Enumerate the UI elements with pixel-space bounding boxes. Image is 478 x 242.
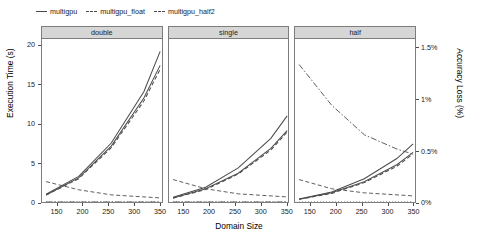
y2-tick-label: 0.5% <box>421 148 437 155</box>
facet-panel-single: single <box>168 26 290 203</box>
accuracy-line-multigpu_float <box>173 180 287 197</box>
y-axis-label-left: Execution Time (s) <box>2 0 14 177</box>
accuracy-line-multigpu_float <box>46 182 160 198</box>
chart-legend: multigpu multigpu_float multigpu_half2 <box>36 5 215 19</box>
x-tick-mark <box>261 203 262 206</box>
x-axis: 1502002503003501502002503003501502002503… <box>41 203 416 217</box>
y-axis-right: 0%0.5%1%1.5% <box>416 26 440 203</box>
legend-label: multigpu_float <box>100 8 145 15</box>
legend-item-multigpu: multigpu <box>36 8 77 15</box>
y2-tick-label: 1.5% <box>421 44 437 51</box>
y-tick-label: 20 <box>27 41 35 48</box>
time-line-multigpu_float <box>46 69 160 195</box>
y-tick-label: 5 <box>31 160 35 167</box>
x-tick-mark <box>235 203 236 206</box>
x-tick-label: 200 <box>330 208 342 215</box>
x-tick-mark <box>183 203 184 206</box>
legend-item-multigpu-float: multigpu_float <box>86 8 145 15</box>
time-line-multigpu_half2 <box>173 131 287 199</box>
x-tick-label: 300 <box>382 208 394 215</box>
y-axis-left: 05101520 <box>20 26 41 203</box>
x-tick-mark <box>388 203 389 206</box>
y2-tick-mark <box>416 47 419 48</box>
time-line-multigpu <box>173 116 287 198</box>
x-tick-label: 150 <box>51 208 63 215</box>
legend-item-multigpu-half2: multigpu_half2 <box>154 8 215 15</box>
facet-strip-label: double <box>42 27 162 39</box>
time-line-multigpu_float <box>299 154 413 199</box>
x-tick-mark <box>57 203 58 206</box>
time-line-multigpu_half2 <box>46 65 160 195</box>
plot-area-half <box>295 39 415 202</box>
x-tick-label: 250 <box>356 208 368 215</box>
facet-strip-label: half <box>295 27 415 39</box>
x-tick-label: 300 <box>255 208 267 215</box>
x-tick-mark <box>310 203 311 206</box>
legend-key-icon <box>86 8 97 15</box>
x-tick-label: 150 <box>177 208 189 215</box>
y2-tick-label: 0% <box>421 199 431 206</box>
x-tick-mark <box>413 203 414 206</box>
plot-area-double <box>42 39 162 202</box>
y2-tick-mark <box>416 203 419 204</box>
time-line-multigpu <box>299 144 413 199</box>
x-tick-mark <box>209 203 210 206</box>
x-tick-mark <box>108 203 109 206</box>
x-tick-mark <box>362 203 363 206</box>
y2-tick-mark <box>416 151 419 152</box>
legend-label: multigpu <box>50 8 77 15</box>
x-tick-mark <box>134 203 135 206</box>
y-axis-label-right: Accuracy Loss (%) <box>452 0 464 177</box>
facet-panels: doublesinglehalf <box>41 26 416 203</box>
legend-key-icon <box>154 8 165 15</box>
chart-root: multigpu multigpu_float multigpu_half2 E… <box>0 0 478 242</box>
x-tick-mark <box>336 203 337 206</box>
x-tick-label: 200 <box>203 208 215 215</box>
facet-panel-half: half <box>294 26 416 203</box>
facet-strip-label: single <box>169 27 289 39</box>
x-tick-label: 300 <box>128 208 140 215</box>
time-line-multigpu <box>46 51 160 194</box>
x-tick-label: 200 <box>76 208 88 215</box>
x-tick-label: 350 <box>154 208 166 215</box>
x-tick-label: 150 <box>304 208 316 215</box>
accuracy-line-multigpu_half2 <box>299 64 413 154</box>
x-tick-label: 350 <box>281 208 293 215</box>
y-axis-label-right-text: Accuracy Loss (%) <box>456 13 464 153</box>
plot-area-single <box>169 39 289 202</box>
time-line-multigpu_float <box>173 132 287 198</box>
x-tick-label: 350 <box>407 208 419 215</box>
legend-label: multigpu_half2 <box>168 8 215 15</box>
y2-tick-mark <box>416 99 419 100</box>
x-tick-mark <box>287 203 288 206</box>
x-tick-mark <box>82 203 83 206</box>
x-tick-label: 250 <box>229 208 241 215</box>
y-tick-label: 0 <box>31 199 35 206</box>
legend-key-icon <box>36 8 47 15</box>
facet-panel-double: double <box>41 26 163 203</box>
y-axis-label-left-text: Execution Time (s) <box>6 13 14 153</box>
y-tick-label: 10 <box>27 120 35 127</box>
x-axis-label: Domain Size <box>0 222 478 230</box>
y-tick-label: 15 <box>27 81 35 88</box>
x-tick-label: 250 <box>102 208 114 215</box>
x-tick-mark <box>160 203 161 206</box>
y2-tick-label: 1% <box>421 96 431 103</box>
